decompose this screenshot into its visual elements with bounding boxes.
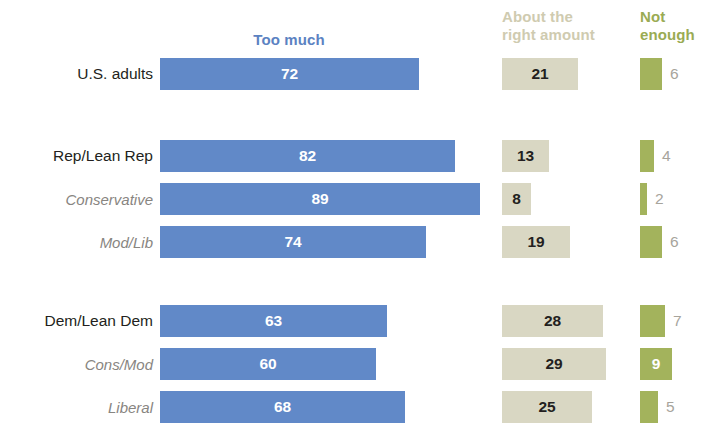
bar-not-enough — [640, 391, 658, 423]
bar-value-right-amount: 19 — [502, 226, 570, 258]
legend-too-much: Too much — [160, 31, 418, 49]
bar-value-right-amount: 8 — [502, 183, 531, 215]
bar-value-too-much: 72 — [160, 58, 419, 90]
bar-not-enough — [640, 140, 654, 172]
bar-value-too-much: 68 — [160, 391, 405, 423]
chart-row: Liberal68255 — [0, 391, 713, 423]
row-label: U.S. adults — [0, 58, 153, 90]
bar-value-too-much: 82 — [160, 140, 455, 172]
bar-not-enough — [640, 58, 662, 90]
chart-row: Conservative8982 — [0, 183, 713, 215]
bar-value-too-much: 63 — [160, 305, 387, 337]
bar-value-too-much: 74 — [160, 226, 426, 258]
legend-not-enough-line2: enough — [640, 26, 713, 44]
legend-about-right-amount-line2: right amount — [502, 26, 612, 44]
bar-value-right-amount: 29 — [502, 348, 606, 380]
bar-not-enough — [640, 226, 662, 258]
bar-value-not-enough: 4 — [654, 140, 702, 172]
chart-row: Rep/Lean Rep82134 — [0, 140, 713, 172]
legend-about-right-amount: About the right amount — [502, 8, 612, 44]
bar-not-enough — [640, 305, 665, 337]
bar-value-too-much: 60 — [160, 348, 376, 380]
chart-row: Dem/Lean Dem63287 — [0, 305, 713, 337]
bar-value-not-enough: 5 — [658, 391, 706, 423]
row-label: Dem/Lean Dem — [0, 305, 153, 337]
row-label: Mod/Lib — [0, 226, 153, 258]
bar-value-not-enough: 7 — [665, 305, 713, 337]
row-label: Liberal — [0, 391, 153, 423]
row-label: Rep/Lean Rep — [0, 140, 153, 172]
bar-value-right-amount: 28 — [502, 305, 603, 337]
bar-value-not-enough: 6 — [662, 58, 710, 90]
legend-not-enough: Not enough — [640, 8, 713, 44]
row-label: Conservative — [0, 183, 153, 215]
bar-value-not-enough: 6 — [662, 226, 710, 258]
bar-value-right-amount: 21 — [502, 58, 578, 90]
bar-value-not-enough: 9 — [640, 348, 672, 380]
bar-not-enough — [640, 183, 647, 215]
bar-value-not-enough: 2 — [647, 183, 695, 215]
legend-not-enough-line1: Not — [640, 8, 713, 26]
bar-value-right-amount: 25 — [502, 391, 592, 423]
bar-value-right-amount: 13 — [502, 140, 549, 172]
bar-value-too-much: 89 — [160, 183, 480, 215]
chart-row: U.S. adults72216 — [0, 58, 713, 90]
chart-row: Cons/Mod60299 — [0, 348, 713, 380]
row-label: Cons/Mod — [0, 348, 153, 380]
chart-row: Mod/Lib74196 — [0, 226, 713, 258]
legend-about-right-amount-line1: About the — [502, 8, 612, 26]
